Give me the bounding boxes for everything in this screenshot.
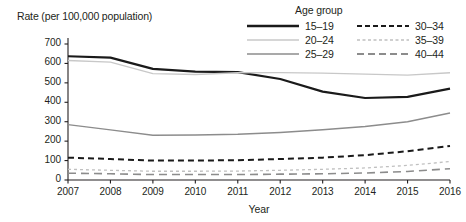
x-tick-label: 2009 xyxy=(133,186,173,197)
y-tick-label: 300 xyxy=(29,115,61,126)
series-line-20-24 xyxy=(68,61,450,76)
x-tick-label: 2016 xyxy=(430,186,466,197)
y-tick-label: 200 xyxy=(29,134,61,145)
x-tick-label: 2012 xyxy=(260,186,300,197)
x-tick-label: 2015 xyxy=(388,186,428,197)
y-tick-label: 700 xyxy=(29,37,61,48)
series-line-30-34 xyxy=(68,146,450,161)
x-tick-label: 2007 xyxy=(48,186,88,197)
y-tick-label: 600 xyxy=(29,56,61,67)
x-tick-label: 2013 xyxy=(303,186,343,197)
x-axis-title: Year xyxy=(229,203,289,215)
x-tick-label: 2010 xyxy=(175,186,215,197)
y-tick-label: 500 xyxy=(29,76,61,87)
y-tick-label: 400 xyxy=(29,95,61,106)
series-line-15-19 xyxy=(68,56,450,98)
x-tick-label: 2008 xyxy=(90,186,130,197)
x-tick-label: 2011 xyxy=(218,186,258,197)
y-tick-label: 0 xyxy=(29,173,61,184)
series-line-25-29 xyxy=(68,113,450,135)
series-line-35-39 xyxy=(68,162,450,172)
x-tick-label: 2014 xyxy=(345,186,385,197)
data-series xyxy=(68,56,450,174)
y-tick-label: 100 xyxy=(29,154,61,165)
series-line-40-44 xyxy=(68,169,450,175)
